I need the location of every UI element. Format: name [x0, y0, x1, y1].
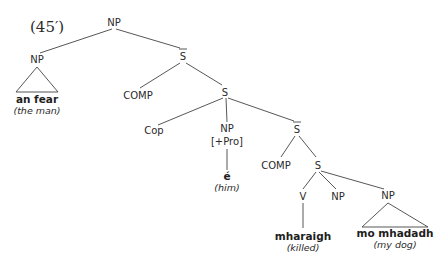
node-comp-2: COMP: [261, 160, 291, 171]
node-np-left: NP: [30, 54, 44, 65]
node-v: V: [300, 191, 307, 202]
word-an-fear: an fear: [16, 93, 59, 105]
node-np-mid: NP: [331, 191, 345, 202]
node-s-2: S: [315, 160, 321, 171]
gloss-my-dog: (my dog): [373, 239, 416, 250]
node-cop: Cop: [144, 125, 163, 136]
example-number: (45′): [30, 18, 64, 36]
word-e: é: [223, 170, 230, 182]
node-root-np: NP: [107, 17, 121, 28]
gloss-killed: (killed): [287, 242, 320, 253]
node-comp-1: COMP: [123, 90, 153, 101]
feature-pro: [+Pro]: [211, 136, 243, 147]
node-s-bar-2: S: [294, 124, 300, 135]
node-s-1: S: [222, 87, 228, 98]
node-np-pro: NP: [220, 123, 234, 134]
gloss-him: (him): [214, 182, 239, 193]
gloss-the-man: (the man): [13, 105, 60, 116]
node-s-bar-1: S: [180, 51, 186, 62]
node-np-right: NP: [381, 190, 395, 201]
syntax-tree: (45′) NP: [0, 0, 444, 269]
word-mharaigh: mharaigh: [275, 230, 331, 242]
word-mo-mhadadh: mo mhadadh: [357, 227, 434, 239]
